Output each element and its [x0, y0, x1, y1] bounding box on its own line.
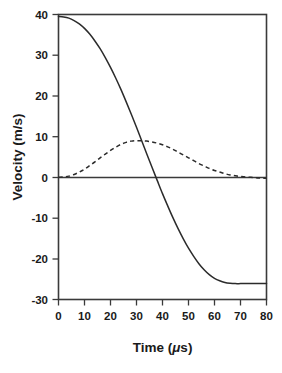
data-series-group [59, 17, 267, 284]
y-tick-label-0: 0 [42, 172, 48, 184]
y-tick-label-40: 40 [35, 9, 48, 21]
y-tick-label-30: 30 [35, 49, 48, 61]
x-tick-label-20: 20 [104, 310, 117, 322]
x-tick-label-40: 40 [156, 310, 169, 322]
x-tick-label-10: 10 [78, 310, 91, 322]
x-tick-label-70: 70 [234, 310, 247, 322]
chart-svg: 40 30 20 10 0 -10 -20 -30 0 10 20 30 40 … [0, 0, 282, 373]
velocity-time-chart: 40 30 20 10 0 -10 -20 -30 0 10 20 30 40 … [0, 0, 282, 373]
series-solid-velocity [59, 17, 267, 284]
x-tick-label-80: 80 [260, 310, 273, 322]
x-axis-ticks [59, 300, 267, 306]
y-tick-labels: 40 30 20 10 0 -10 -20 -30 [31, 9, 48, 306]
x-tick-label-60: 60 [208, 310, 221, 322]
y-tick-label-neg10: -10 [31, 212, 48, 224]
plot-frame [59, 15, 267, 300]
plot-frame-box [59, 15, 267, 300]
y-tick-label-20: 20 [35, 90, 48, 102]
y-tick-label-neg30: -30 [31, 294, 48, 306]
y-axis-title: Velocity (m/s) [10, 113, 25, 200]
y-tick-label-10: 10 [35, 131, 48, 143]
series-dashed-velocity [59, 141, 267, 179]
x-tick-labels: 0 10 20 30 40 50 60 70 80 [55, 310, 273, 322]
x-tick-label-50: 50 [182, 310, 195, 322]
x-axis-title: Time (μs) [133, 340, 193, 355]
x-tick-label-30: 30 [130, 310, 143, 322]
x-tick-label-0: 0 [55, 310, 61, 322]
y-tick-label-neg20: -20 [31, 253, 48, 265]
y-axis-ticks [53, 15, 59, 300]
